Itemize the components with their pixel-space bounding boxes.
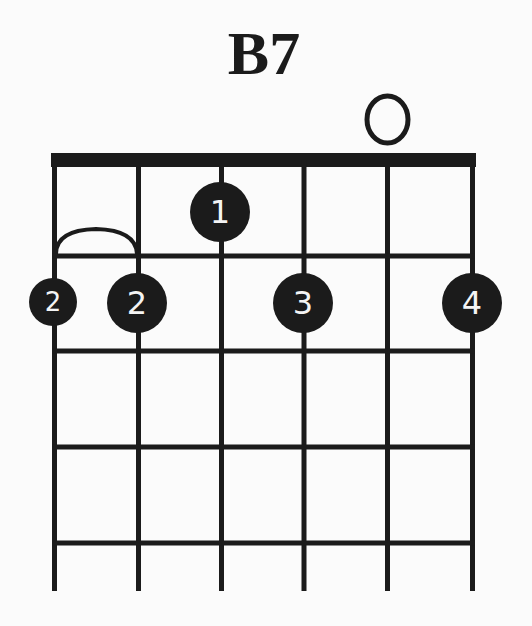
finger-dot-4: 4 [442,273,502,333]
finger-label: 4 [462,284,482,322]
finger-label: 3 [293,284,313,322]
strings [55,160,473,591]
finger-label: 2 [45,287,62,317]
open-circle-icon [367,96,408,143]
chord-diagram: B7 1 2 2 3 4 [0,0,532,626]
chord-title: B7 [228,19,300,87]
finger-label: 1 [210,193,230,231]
finger-dot-2-string-2: 2 [107,273,167,333]
finger-dot-3: 3 [273,273,333,333]
finger-label: 2 [127,284,147,322]
nut [51,153,476,167]
barre-arc-icon [56,229,137,254]
finger-dot-2-string-1: 2 [29,278,77,326]
finger-dot-1: 1 [190,182,250,242]
open-string-marker [367,96,408,143]
